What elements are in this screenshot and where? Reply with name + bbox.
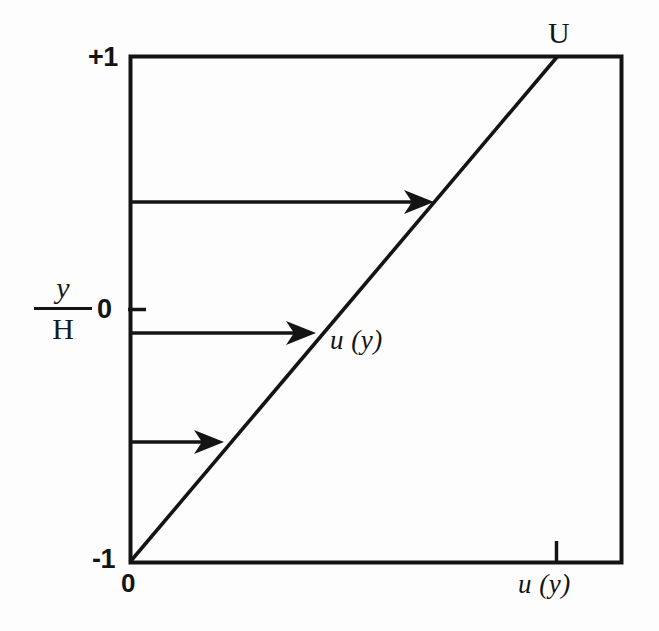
y-axis-title-denominator: H bbox=[34, 313, 92, 345]
max-velocity-label: U bbox=[548, 18, 570, 48]
y-axis-tick-label-minus-one: -1 bbox=[92, 546, 115, 573]
plot-frame bbox=[131, 57, 622, 563]
velocity-profile-figure: +1 0 -1 0 U u (y) u (y) y H bbox=[0, 0, 659, 631]
y-axis-title-numerator: y bbox=[34, 272, 92, 305]
velocity-arrow-bottom bbox=[131, 430, 224, 454]
y-axis-tick-label-plus-one: +1 bbox=[88, 44, 118, 71]
velocity-profile-line bbox=[130, 57, 557, 562]
y-axis-tick-label-zero: 0 bbox=[97, 296, 112, 323]
x-axis-origin-label: 0 bbox=[121, 570, 135, 596]
y-axis-title: y H bbox=[34, 272, 92, 344]
fraction-bar-icon bbox=[34, 307, 92, 310]
velocity-arrow-middle bbox=[131, 321, 316, 345]
velocity-profile-curve-label: u (y) bbox=[330, 327, 383, 354]
velocity-arrow-top bbox=[131, 190, 434, 214]
x-axis-label: u (y) bbox=[518, 571, 571, 598]
